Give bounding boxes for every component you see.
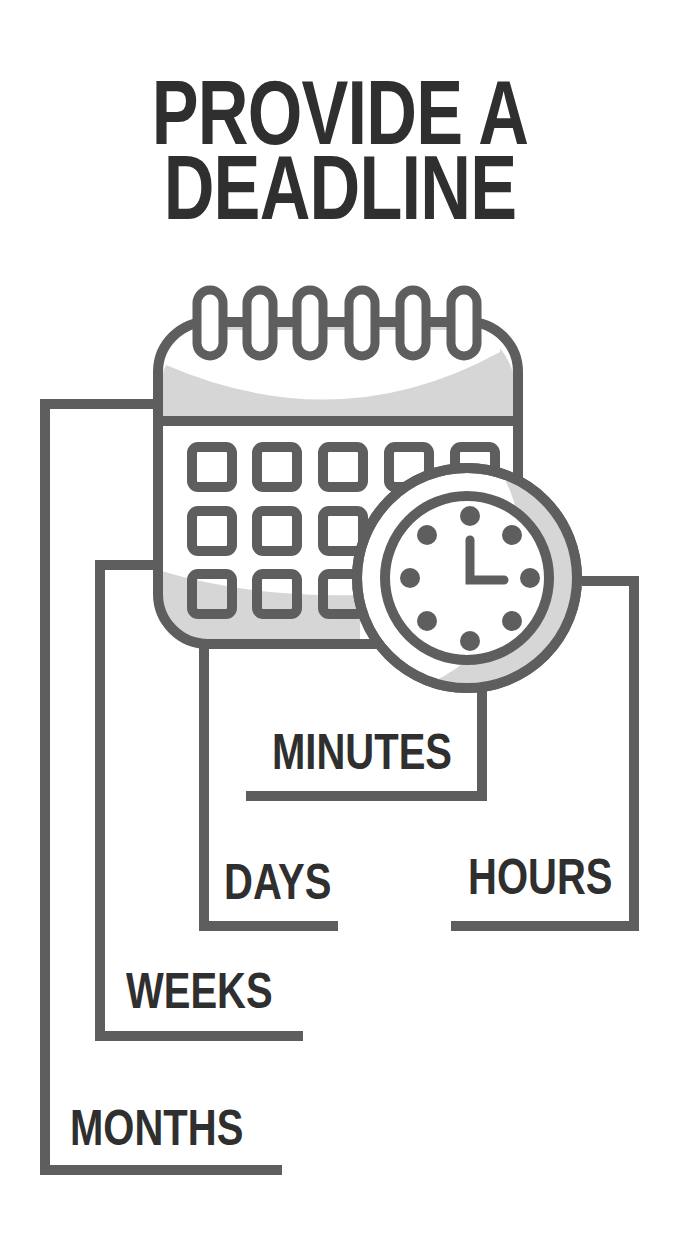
label-months: MONTHS bbox=[70, 1103, 243, 1153]
clock-icon bbox=[357, 468, 577, 689]
label-minutes: MINUTES bbox=[272, 727, 452, 777]
deadline-diagram bbox=[0, 0, 680, 1241]
months-connector bbox=[45, 404, 282, 1170]
label-weeks: WEEKS bbox=[126, 966, 273, 1016]
label-days: DAYS bbox=[224, 857, 331, 907]
label-hours: HOURS bbox=[468, 852, 612, 902]
